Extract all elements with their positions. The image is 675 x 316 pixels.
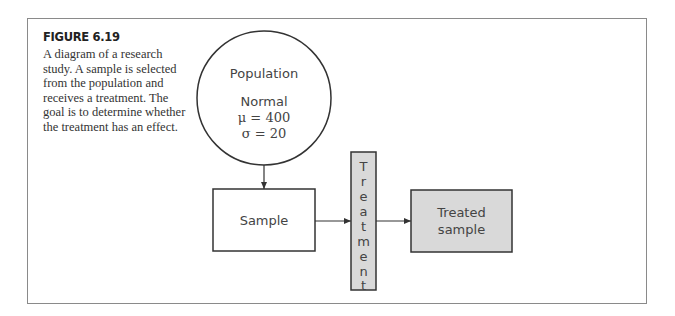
treated-sample-node: Treated sample [411,190,512,252]
treatment-letter: t [361,219,366,234]
treated-sample-line1: Treated [436,205,485,220]
population-distribution: Normal [240,94,287,109]
treatment-letter: r [361,174,367,189]
treatment-node: T r e a t m e n t [351,152,376,293]
treated-sample-line2: sample [438,222,485,237]
research-diagram: Population Normal μ = 400 σ = 20 Sample … [0,0,675,316]
sample-label: Sample [240,213,289,228]
treatment-letter: e [360,249,368,264]
treatment-letter: m [357,234,370,249]
treatment-letter: t [361,278,366,293]
treatment-letter: n [359,264,367,279]
treatment-letter: T [359,159,368,174]
population-title: Population [230,66,298,81]
population-mean: μ = 400 [238,110,290,125]
treatment-letter: e [360,189,368,204]
sample-node: Sample [213,189,315,251]
population-node: Population Normal μ = 400 σ = 20 [197,31,331,165]
population-sd: σ = 20 [242,126,287,141]
treated-sample-box [411,190,512,252]
treatment-letter: a [360,204,368,219]
